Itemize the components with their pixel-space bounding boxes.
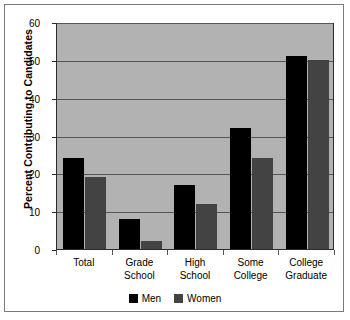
- bar-women-grade-school: [141, 241, 162, 249]
- y-tick-label-30: 30: [14, 131, 40, 142]
- legend-entry-men[interactable]: Men: [129, 293, 161, 304]
- bar-men-some-college: [230, 128, 251, 249]
- bar-women-college-graduate: [308, 60, 329, 249]
- bar-group-college-graduate: [279, 24, 335, 249]
- x-tick-label-line: Grade: [112, 257, 168, 270]
- x-tick-label-line: School: [112, 270, 168, 283]
- y-tick-label-20: 20: [14, 169, 40, 180]
- women-swatch: [174, 294, 183, 303]
- y-tick-label-50: 50: [14, 55, 40, 66]
- x-tick-label-college-graduate: CollegeGraduate: [278, 257, 334, 282]
- bar-group-high-school: [168, 24, 224, 249]
- x-tick-mark-2: [167, 250, 168, 255]
- bar-women-some-college: [252, 158, 273, 249]
- x-tick-label-line: High: [167, 257, 223, 270]
- x-tick-label-line: School: [167, 270, 223, 283]
- x-tick-label-line: Total: [56, 257, 112, 270]
- x-tick-mark-1: [112, 250, 113, 255]
- y-tick-label-0: 0: [14, 245, 40, 256]
- bar-women-high-school: [196, 204, 217, 249]
- bar-group-some-college: [224, 24, 280, 249]
- x-tick-mark-3: [223, 250, 224, 255]
- x-tick-label-line: Some: [223, 257, 279, 270]
- x-tick-label-some-college: SomeCollege: [223, 257, 279, 282]
- men-swatch: [129, 294, 138, 303]
- y-tick-label-60: 60: [14, 18, 40, 29]
- bar-men-grade-school: [119, 219, 140, 249]
- y-axis-title: Percent Contributing to Candidates: [22, 4, 34, 234]
- y-tick-label-10: 10: [14, 207, 40, 218]
- legend-label-women: Women: [187, 293, 221, 304]
- x-tick-label-line: Graduate: [278, 270, 334, 283]
- bar-group-total: [57, 24, 113, 249]
- x-tick-label-high-school: HighSchool: [167, 257, 223, 282]
- legend-label-men: Men: [142, 293, 161, 304]
- x-tick-label-line: College: [278, 257, 334, 270]
- x-tick-label-total: Total: [56, 257, 112, 270]
- legend-entry-women[interactable]: Women: [174, 293, 221, 304]
- plot-area: [56, 23, 334, 250]
- x-tick-mark-4: [278, 250, 279, 255]
- bar-women-total: [85, 177, 106, 249]
- chart-frame: Percent Contributing to Candidates 01020…: [4, 4, 344, 312]
- bar-group-grade-school: [113, 24, 169, 249]
- x-axis-line: [56, 249, 334, 250]
- x-tick-mark-0: [56, 250, 57, 255]
- bar-men-total: [63, 158, 84, 249]
- bar-men-high-school: [174, 185, 195, 249]
- chart-legend: MenWomen: [5, 293, 345, 304]
- y-tick-label-40: 40: [14, 93, 40, 104]
- bar-men-college-graduate: [286, 56, 307, 249]
- x-tick-label-grade-school: GradeSchool: [112, 257, 168, 282]
- x-tick-label-line: College: [223, 270, 279, 283]
- x-tick-mark-5: [334, 250, 335, 255]
